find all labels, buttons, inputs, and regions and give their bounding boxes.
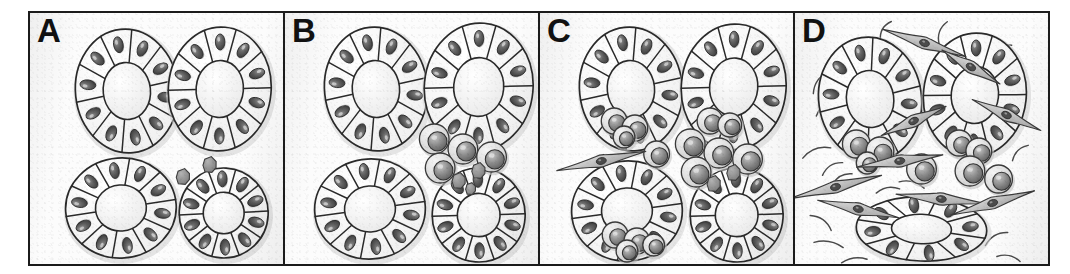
lymphocyte-nucleus [619,132,633,146]
lymphocyte [644,141,672,170]
plasma-cell [707,176,720,192]
lymphocyte-nucleus-highlight [687,140,693,145]
plasma-cell-body [472,163,485,179]
nucleus-body [733,243,743,259]
panel-D-artwork [795,13,1048,264]
lymphocyte-nucleus-highlight [613,232,618,236]
plasma-cell-body [203,157,216,173]
lymphocyte-nucleus-highlight [654,151,659,155]
lymphocyte-nucleus [993,172,1011,190]
panel-label-D: D [802,14,826,47]
panel-B: B [285,13,540,264]
plasma-cell-body [452,173,465,189]
plasma-cell-body [466,183,476,195]
plasma-cell-body [727,165,740,181]
lymphocyte-nucleus-highlight [612,118,617,122]
collagen-fiber [935,20,947,44]
plasma-cell [176,169,189,185]
nucleus-body [215,34,225,50]
plasma-cell-body [176,169,189,185]
collagen-fiber [801,144,830,158]
collagen-fiber [814,239,844,248]
collagen-fiber [997,253,1021,261]
collagen-fiber-stroke [997,253,1021,261]
lymphocyte-nucleus-highlight [489,153,495,158]
collagen-fiber-stroke [814,239,844,248]
nucleus-body [217,171,227,187]
collagen-fiber-stroke [876,185,900,193]
plasma-cell-body [707,176,720,192]
lymphocyte-nucleus-highlight [745,155,751,160]
lymphocyte-nucleus-highlight [632,125,637,129]
nucleus-body [475,243,485,259]
lymphocyte-nucleus [964,164,983,183]
collagen-fiber-stroke [1010,143,1028,161]
lymphocyte-nucleus-highlight [708,118,713,122]
collagen-fiber-stroke [810,212,833,230]
lymphocyte-nucleus-highlight [622,134,626,137]
collagen-fiber [810,212,833,230]
plasma-cell [466,183,476,195]
acinus-intact [60,153,185,264]
panel-label-C: C [547,14,571,47]
nucleus-body [729,31,739,47]
panel-strip: A B C D [28,11,1050,266]
collagen-fiber-stroke [935,20,947,44]
lymphocyte-nucleus-highlight [693,168,699,173]
lymphocyte-nucleus-highlight [625,248,629,251]
lymphocyte-nucleus [457,142,476,161]
panel-C-artwork [540,13,793,264]
nucleus-body [971,40,981,56]
lymphocyte-nucleus-highlight [854,141,859,145]
lymphocyte-nucleus [684,137,703,156]
collagen-fiber [820,159,842,175]
lymphocyte-nucleus [651,148,667,165]
panel-label-B: B [292,14,316,47]
plasma-cell [727,165,740,181]
nucleus-body [474,30,484,46]
figure-root: A B C D [0,0,1070,274]
lymphocyte-nucleus-highlight [431,135,437,140]
lymphocyte-nucleus-highlight [919,165,925,170]
lymphocyte-nucleus-highlight [865,160,869,163]
lymphocyte-nucleus-highlight [967,167,973,172]
lymphocyte-nucleus [649,240,663,254]
collagen-fiber [876,185,900,193]
lymphocyte-nucleus-highlight [877,148,882,152]
lymphocyte-nucleus-highlight [652,242,656,245]
collagen-fiber [1010,143,1028,161]
lymphocyte-nucleus-highlight [634,238,639,242]
nucleus-body [215,128,225,144]
lymphocyte-nucleus-highlight [728,122,733,126]
lymphocyte-nucleus [915,162,934,181]
plasma-cell [203,157,216,173]
plasma-cell [472,163,485,179]
panel-A-artwork [30,13,283,264]
lymphocyte-nucleus [485,150,504,169]
panel-label-A: A [37,14,61,47]
lymphocyte-nucleus-highlight [976,148,981,152]
plasma-cell [452,173,465,189]
lymphocyte-nucleus-highlight [716,149,722,154]
collagen-fiber [841,256,867,263]
lymphocyte-nucleus [741,152,760,171]
nucleus-body [220,239,230,255]
lymphocyte-nucleus-highlight [437,164,443,169]
panel-C: C [540,13,795,264]
lymphocyte-nucleus-highlight [996,176,1001,180]
lymphocyte-nucleus [428,132,447,151]
lymphocyte-nucleus [434,161,453,180]
collagen-fiber-stroke [801,144,830,158]
acinus-intact [161,22,282,162]
lymphocyte-nucleus [690,165,709,184]
lymphocyte-nucleus [725,119,740,134]
collagen-fiber-stroke [820,159,842,175]
panel-D: D [795,13,1048,264]
lymphocyte-nucleus-highlight [957,140,962,144]
lymphocyte-nucleus [713,146,732,165]
lymphocyte [985,165,1015,196]
panel-B-artwork [285,13,538,264]
acinus-intact [310,155,433,264]
lymphocyte-nucleus-highlight [460,145,466,150]
collagen-fiber-stroke [841,256,867,263]
